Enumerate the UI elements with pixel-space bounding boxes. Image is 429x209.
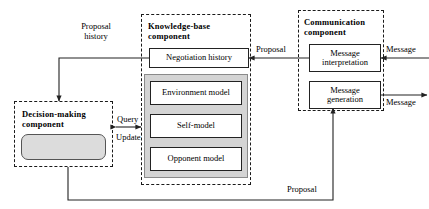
proposal-top-label: Proposal <box>256 44 286 54</box>
knowledge-base-title-line1: Knowledge-base <box>148 21 210 31</box>
decision-making-title-line1: Decision-making <box>22 109 86 119</box>
proposal-history-label-line2: history <box>84 31 108 41</box>
decision-making-title-line2: component <box>22 119 64 129</box>
proposal-history-label: Proposal history <box>66 21 126 41</box>
decision-making-title: Decision-making component <box>22 109 114 129</box>
environment-model-box[interactable]: Environment model <box>150 81 242 105</box>
message-in-label: Message <box>386 44 416 54</box>
negotiation-history-label: Negotiation history <box>166 53 232 63</box>
message-interpretation-box[interactable]: Message interpretation <box>309 44 381 72</box>
update-label: Update <box>116 132 141 142</box>
update-text: Update <box>116 132 141 142</box>
self-model-box[interactable]: Self-model <box>150 114 242 138</box>
proposal-history-label-line1: Proposal <box>81 21 111 31</box>
architecture-diagram: Decision-making component Knowledge-base… <box>0 0 429 209</box>
decision-making-inner-box[interactable] <box>21 134 106 160</box>
proposal-bottom-text: Proposal <box>287 184 317 194</box>
message-generation-label-line2: generation <box>327 95 363 105</box>
message-out-text: Message <box>386 97 416 107</box>
communication-title-line2: component <box>304 27 346 37</box>
message-interpretation-label-line2: interpretation <box>322 58 368 68</box>
opponent-model-box[interactable]: Opponent model <box>150 147 242 171</box>
query-text: Query <box>117 114 138 124</box>
query-label: Query <box>117 114 138 124</box>
opponent-model-label: Opponent model <box>168 154 225 164</box>
self-model-label: Self-model <box>177 121 215 131</box>
message-out-label: Message <box>386 97 416 107</box>
knowledge-base-title: Knowledge-base component <box>148 21 252 41</box>
message-generation-box[interactable]: Message generation <box>309 81 381 109</box>
proposal-top-text: Proposal <box>256 44 286 54</box>
communication-title-line1: Communication <box>304 17 365 27</box>
proposal-bottom-label: Proposal <box>287 184 317 194</box>
communication-title: Communication component <box>304 17 388 37</box>
negotiation-history-box[interactable]: Negotiation history <box>149 48 249 68</box>
wire-proposal-history <box>59 58 150 101</box>
message-in-text: Message <box>386 44 416 54</box>
knowledge-base-title-line2: component <box>148 31 190 41</box>
environment-model-label: Environment model <box>162 88 230 98</box>
